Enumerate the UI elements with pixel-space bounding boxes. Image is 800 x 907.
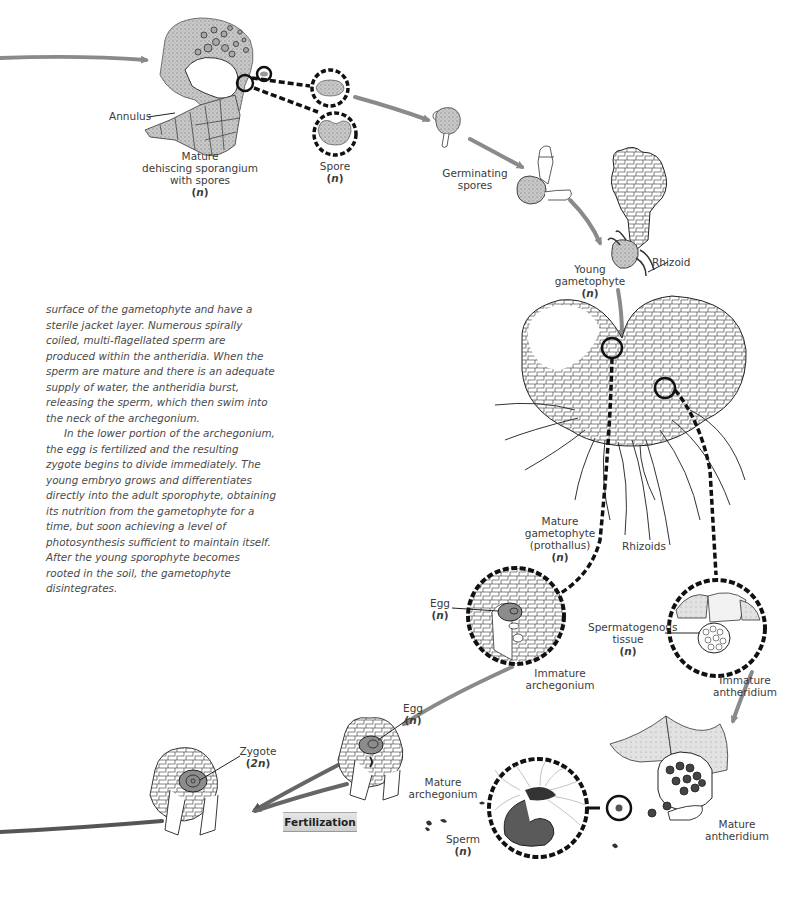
arrow-germinating-1-to-2 xyxy=(470,139,522,167)
arrow-zygote-to-sporophyte xyxy=(0,821,162,832)
label-mature-antheridium: Mature antheridium xyxy=(697,818,777,842)
label-rhizoids: Rhizoids xyxy=(622,540,666,552)
sporangium-illustration xyxy=(145,18,271,156)
arrow-spore-to-germinating xyxy=(355,97,428,120)
immature-antheridium-illustration xyxy=(665,580,765,676)
arrow-germinating-to-young xyxy=(570,200,600,243)
label-rhizoid: Rhizoid xyxy=(652,256,690,268)
spore-illustrations xyxy=(252,70,356,155)
label-immature-archegonium: Immature archegonium xyxy=(520,667,600,691)
label-annulus: Annulus xyxy=(109,110,151,122)
immature-archegonium-illustration xyxy=(452,568,564,664)
fertilization-label-box: Fertilization xyxy=(283,812,357,832)
label-immature-antheridium: Immature antheridium xyxy=(705,674,785,698)
label-egg-mature: Egg (n) xyxy=(400,702,426,726)
mature-archegonium-illustration xyxy=(338,718,410,800)
paragraph-2: In the lower portion of the archegonium,… xyxy=(46,426,276,597)
label-egg-immature: Egg (n) xyxy=(427,597,453,621)
body-text: surface of the gametophyte and have a st… xyxy=(46,302,276,597)
label-germinating-spores: Germinating spores xyxy=(440,167,510,191)
label-spore: Spore (n) xyxy=(310,160,360,184)
label-young-gametophyte: Young gametophyte (n) xyxy=(550,263,630,299)
fern-life-cycle-diagram: Annulus Mature dehiscing sporangium with… xyxy=(0,0,800,907)
label-zygote: Zygote (2n) xyxy=(238,745,278,769)
label-mature-archegonium: Mature archegonium xyxy=(408,776,478,800)
arrow-from-sporophyte xyxy=(0,57,146,60)
paragraph-1: surface of the gametophyte and have a st… xyxy=(46,302,276,426)
label-spermatogenous-tissue: Spermatogenous tissue (n) xyxy=(588,621,668,657)
label-mature-gametophyte: Mature gametophyte (prothallus) (n) xyxy=(520,515,600,563)
label-sperm: Sperm (n) xyxy=(443,833,483,857)
label-sporangium: Mature dehiscing sporangium with spores … xyxy=(140,150,260,198)
